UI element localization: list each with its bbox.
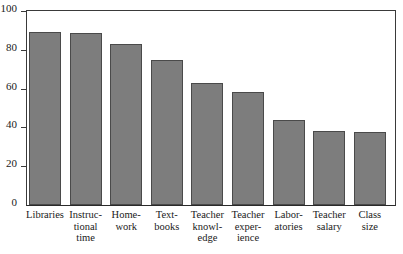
bar	[354, 132, 386, 205]
x-axis-label-line: books	[144, 221, 190, 233]
x-axis-label-line: work	[103, 221, 149, 233]
bar	[29, 32, 61, 205]
bar	[191, 83, 223, 205]
x-axis-label-line: size	[347, 221, 393, 233]
x-axis-label-line: Text-	[144, 209, 190, 221]
bar-slot	[29, 11, 61, 205]
y-axis-tick-label: 0	[12, 197, 18, 208]
x-axis-label: Teacherknowl-edge	[184, 209, 230, 244]
x-axis-label-line: Libraries	[22, 209, 68, 221]
x-axis-label: Classsize	[347, 209, 393, 232]
y-axis-tick-label: 100	[1, 3, 18, 14]
x-axis-label-line: exper-	[225, 221, 271, 233]
bar-slot	[354, 11, 386, 205]
bar-slot	[151, 11, 183, 205]
x-axis-labels: LibrariesInstruc-tionaltimeHome-workText…	[27, 209, 395, 254]
x-axis-label-line: tional	[63, 221, 109, 233]
x-axis-label: Instruc-tionaltime	[63, 209, 109, 244]
x-axis-label: Labor-atories	[266, 209, 312, 232]
x-axis-label-line: edge	[184, 232, 230, 244]
bar-slot	[273, 11, 305, 205]
y-axis-tick-label: 80	[6, 42, 17, 53]
x-axis-label-line: atories	[266, 221, 312, 233]
bars-container	[27, 11, 395, 205]
x-axis-label-line: Class	[347, 209, 393, 221]
bar-slot	[110, 11, 142, 205]
x-axis-label: Teacherexper-ience	[225, 209, 271, 244]
x-axis-label-line: Instruc-	[63, 209, 109, 221]
y-axis-tick-label: 20	[6, 158, 17, 169]
x-axis-label: Teachersalary	[306, 209, 352, 232]
x-axis-label-line: Teacher	[184, 209, 230, 221]
bar	[110, 44, 142, 205]
bar-chart-figure: 020406080100 LibrariesInstruc-tionaltime…	[0, 0, 403, 254]
y-axis-tick-mark	[21, 127, 26, 128]
y-axis-tick-mark	[21, 50, 26, 51]
y-axis-tick-label: 60	[6, 81, 17, 92]
x-axis-label-line: Labor-	[266, 209, 312, 221]
y-axis-tick-mark	[21, 11, 26, 12]
bar	[70, 33, 102, 205]
bar	[313, 131, 345, 205]
x-axis-label: Home-work	[103, 209, 149, 232]
x-axis-label-line: Teacher	[306, 209, 352, 221]
x-axis-label: Libraries	[22, 209, 68, 221]
x-axis-label-line: Home-	[103, 209, 149, 221]
bar-slot	[232, 11, 264, 205]
x-axis-label-line: Teacher	[225, 209, 271, 221]
y-axis-tick-mark	[21, 166, 26, 167]
x-axis-label: Text-books	[144, 209, 190, 232]
bar	[232, 92, 264, 205]
bar-slot	[313, 11, 345, 205]
bar-slot	[70, 11, 102, 205]
x-axis-label-line: ience	[225, 232, 271, 244]
y-axis: 020406080100	[0, 0, 26, 216]
y-axis-tick-label: 40	[6, 119, 17, 130]
y-axis-tick-mark	[21, 89, 26, 90]
bar	[151, 60, 183, 205]
x-axis-label-line: knowl-	[184, 221, 230, 233]
bar	[273, 120, 305, 205]
bar-slot	[191, 11, 223, 205]
x-axis-label-line: salary	[306, 221, 352, 233]
x-axis-label-line: time	[63, 232, 109, 244]
